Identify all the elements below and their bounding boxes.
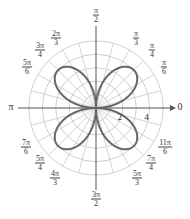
angle-label-300: 5π3: [132, 170, 142, 187]
label-denominator: 4: [149, 51, 155, 59]
label-denominator: 6: [24, 68, 30, 76]
angle-label-45: π4: [149, 42, 155, 59]
label-denominator: 2: [93, 200, 99, 208]
angle-label-30: π6: [161, 59, 167, 76]
arrow-icon: [170, 105, 176, 111]
angle-label-225: 5π4: [35, 155, 45, 172]
angle-label-330: 11π6: [158, 139, 172, 156]
angle-label-0: 0: [178, 101, 183, 112]
angle-label-315: 7π4: [146, 155, 156, 172]
label-denominator: 3: [52, 179, 58, 187]
angle-label-150: 5π6: [22, 59, 32, 76]
angle-label-135: 3π4: [35, 42, 45, 59]
label-denominator: 3: [133, 39, 139, 47]
polar-plot: [0, 0, 190, 219]
angle-label-210: 7π6: [21, 139, 31, 156]
label-denominator: 4: [148, 164, 154, 172]
label-denominator: 4: [37, 51, 43, 59]
label-denominator: 2: [93, 16, 99, 24]
angle-label-120: 2π3: [51, 30, 61, 47]
angle-label-180: π: [8, 101, 13, 112]
angle-label-270: 3π2: [91, 191, 101, 208]
label-denominator: 3: [134, 179, 140, 187]
label-denominator: 4: [37, 164, 43, 172]
label-denominator: 6: [161, 68, 167, 76]
radial-label-2: 2: [118, 112, 123, 122]
radial-label-4: 4: [144, 112, 149, 122]
label-denominator: 6: [162, 148, 168, 156]
label-denominator: 3: [53, 39, 59, 47]
angle-label-60: π3: [133, 30, 139, 47]
angle-label-90: π2: [93, 7, 99, 24]
label-denominator: 6: [23, 148, 29, 156]
angle-label-240: 4π3: [50, 170, 60, 187]
